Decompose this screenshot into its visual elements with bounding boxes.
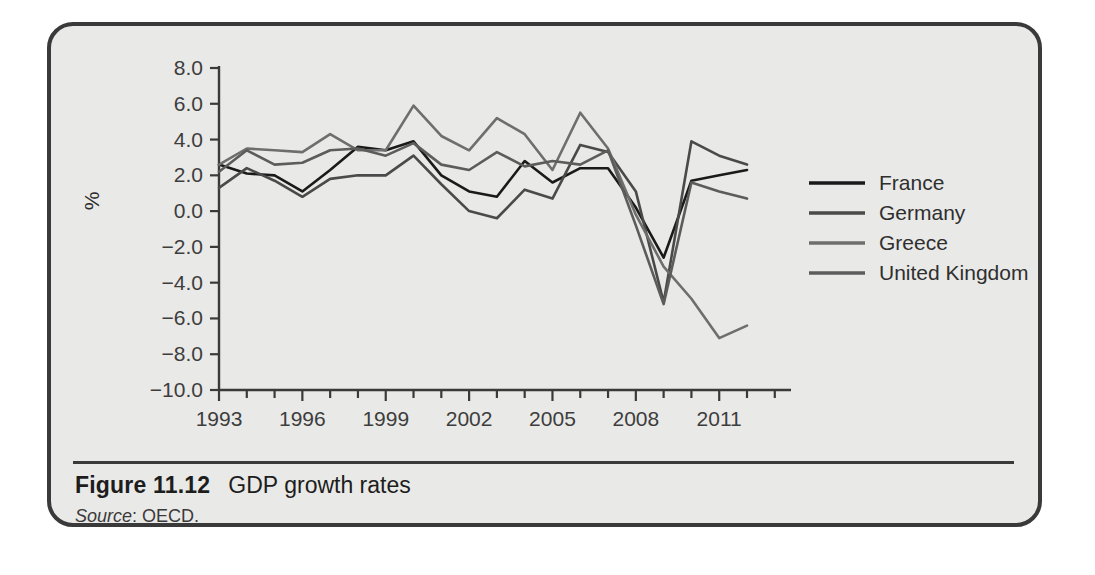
y-tick-label: 2.0 [174, 163, 203, 186]
figure-number: Figure 11.12 [75, 472, 210, 499]
chart-legend: FranceGermanyGreeceUnited Kingdom [809, 171, 1028, 284]
y-tick-label: −4.0 [162, 271, 203, 294]
series-line-germany [219, 141, 747, 302]
legend-label: Germany [879, 201, 966, 224]
caption-divider [73, 461, 1014, 464]
x-tick-label: 2002 [446, 407, 493, 430]
x-tick-label: 1993 [196, 407, 243, 430]
series-line-greece [219, 106, 747, 339]
x-axis: 1993199619992002200520082011 [196, 390, 791, 430]
data-series-group [219, 106, 747, 339]
legend-label: United Kingdom [879, 261, 1028, 284]
source-value: : OECD. [132, 506, 199, 526]
source-label: Source [75, 506, 132, 526]
x-tick-label: 1999 [362, 407, 409, 430]
caption-block: Figure 11.12 GDP growth rates Source: OE… [75, 472, 995, 527]
y-tick-label: −2.0 [162, 235, 203, 258]
y-tick-label: 4.0 [174, 128, 203, 151]
source-line: Source: OECD. [75, 506, 995, 527]
legend-label: Greece [879, 231, 948, 254]
y-tick-label: −6.0 [162, 306, 203, 329]
y-axis-title: % [80, 192, 103, 211]
y-axis: 8.06.04.02.00.0−2.0−4.0−6.0−8.0−10.0 [150, 56, 219, 401]
y-tick-label: −8.0 [162, 342, 203, 365]
x-tick-label: 2011 [697, 407, 742, 430]
y-tick-label: −10.0 [150, 378, 203, 401]
caption-line: Figure 11.12 GDP growth rates [75, 472, 995, 499]
y-axis-label: % [80, 192, 103, 211]
figure-card: 8.06.04.02.00.0−2.0−4.0−6.0−8.0−10.0 199… [47, 22, 1042, 527]
series-line-france [219, 141, 747, 257]
chart-plot-area: 8.06.04.02.00.0−2.0−4.0−6.0−8.0−10.0 199… [51, 26, 1038, 446]
legend-label: France [879, 171, 944, 194]
y-tick-label: 8.0 [174, 56, 203, 79]
x-tick-label: 2005 [529, 407, 576, 430]
x-tick-label: 1996 [279, 407, 326, 430]
figure-title: GDP growth rates [228, 472, 410, 499]
gdp-growth-line-chart: 8.06.04.02.00.0−2.0−4.0−6.0−8.0−10.0 199… [51, 26, 1038, 446]
y-tick-label: 0.0 [174, 199, 203, 222]
x-tick-label: 2008 [612, 407, 659, 430]
y-tick-label: 6.0 [174, 92, 203, 115]
